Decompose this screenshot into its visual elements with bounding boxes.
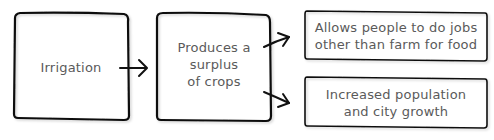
node-population-label: Increased population and city growth: [326, 86, 467, 120]
node-jobs-label: Allows people to do jobs other than farm…: [315, 19, 478, 53]
node-irrigation: Irrigation: [14, 14, 128, 120]
node-population: Increased population and city growth: [305, 77, 487, 128]
node-surplus: Produces a surplus of crops: [157, 14, 271, 114]
node-jobs: Allows people to do jobs other than farm…: [305, 11, 487, 61]
node-irrigation-label: Irrigation: [40, 59, 101, 76]
node-surplus-label: Produces a surplus of crops: [177, 39, 250, 90]
